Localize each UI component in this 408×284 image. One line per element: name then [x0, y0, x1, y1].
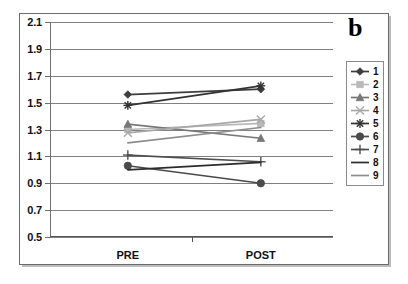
- legend-item-5[interactable]: 5: [349, 117, 381, 130]
- legend-marker-circle: [349, 130, 371, 143]
- legend-label: 4: [371, 106, 379, 116]
- legend-marker-x: [349, 104, 371, 117]
- legend-item-4[interactable]: 4: [349, 104, 381, 117]
- y-tick-label: 0.5: [27, 231, 42, 243]
- legend-marker-none: [349, 169, 371, 182]
- series-5: [123, 81, 265, 109]
- y-tick-label: 1.9: [27, 43, 42, 55]
- legend-item-7[interactable]: 7: [349, 143, 381, 156]
- y-tick-label: 0.9: [27, 177, 42, 189]
- legend-item-1[interactable]: 1: [349, 65, 381, 78]
- legend-item-2[interactable]: 2: [349, 78, 381, 91]
- x-tick-label: POST: [246, 249, 276, 261]
- legend-label: 9: [371, 171, 379, 181]
- y-tick-label: 0.7: [27, 204, 42, 216]
- panel-letter: b: [348, 15, 362, 41]
- series-lines: [50, 22, 333, 237]
- legend-label: 7: [371, 145, 379, 155]
- legend-marker-diamond: [349, 65, 371, 78]
- plot-inner: 0.50.70.91.11.31.51.71.92.1 PREPOST: [50, 22, 333, 237]
- figure-shadow-right: [389, 16, 391, 267]
- legend-label: 1: [371, 67, 379, 77]
- legend-label: 3: [371, 93, 379, 103]
- legend-label: 5: [371, 119, 379, 129]
- y-tick-label: 1.7: [27, 70, 42, 82]
- legend-label: 8: [371, 158, 379, 168]
- legend-marker-none: [349, 156, 371, 169]
- legend-item-8[interactable]: 8: [349, 156, 381, 169]
- legend-item-3[interactable]: 3: [349, 91, 381, 104]
- legend-item-6[interactable]: 6: [349, 130, 381, 143]
- x-tick-label: PRE: [117, 249, 140, 261]
- series-9: [128, 127, 261, 142]
- figure-shadow-bottom: [22, 265, 391, 267]
- legend-marker-square: [349, 78, 371, 91]
- legend: 123456789: [346, 61, 384, 186]
- y-tick-label: 1.1: [27, 150, 42, 162]
- legend-marker-triangle: [349, 91, 371, 104]
- legend-label: 2: [371, 80, 379, 90]
- x-tick-mark: [192, 237, 193, 242]
- legend-label: 6: [371, 132, 379, 142]
- y-tick-mark: [45, 237, 50, 238]
- legend-marker-asterisk: [349, 117, 371, 130]
- y-tick-label: 2.1: [27, 16, 42, 28]
- plot-area: 0.50.70.91.11.31.51.71.92.1 PREPOST: [50, 22, 333, 237]
- y-tick-label: 1.3: [27, 124, 42, 136]
- y-tick-label: 1.5: [27, 97, 42, 109]
- legend-marker-plus: [349, 143, 371, 156]
- legend-item-9[interactable]: 9: [349, 169, 381, 182]
- chart-figure: b 0.50.70.91.11.31.51.71.92.1 PREPOST 12…: [0, 0, 408, 284]
- series-8: [128, 162, 261, 169]
